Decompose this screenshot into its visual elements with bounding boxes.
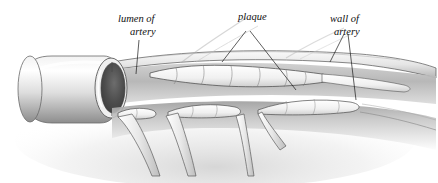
illustration-canvas: lumen of artery plaque wall of artery bbox=[0, 0, 438, 183]
artery-diagram: lumen of artery plaque wall of artery bbox=[0, 0, 438, 183]
plaque-label: plaque bbox=[237, 11, 267, 22]
lumen-cavity bbox=[101, 63, 125, 113]
